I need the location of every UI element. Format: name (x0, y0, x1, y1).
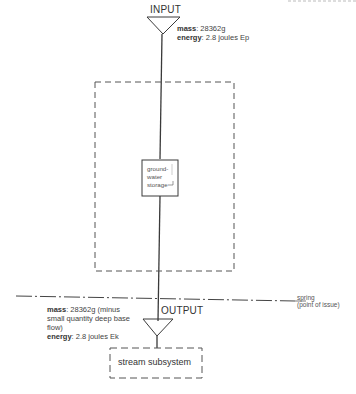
output-energy: energy: 2.8 joules Ek (47, 332, 119, 341)
spring-sublabel: (point of issue) (297, 301, 340, 309)
output-energy-label: energy (47, 332, 72, 341)
stream-subsystem-label: stream subsystem (118, 357, 191, 367)
output-mass-label: mass (47, 305, 66, 314)
spring-boundary-line (16, 296, 295, 301)
input-energy: energy: 2.8 joules Ep (177, 33, 249, 42)
output-title: OUTPUT (161, 305, 203, 316)
input-title: INPUT (150, 4, 181, 15)
storage-line-2: water (147, 173, 162, 181)
flow-line-lower (158, 196, 160, 321)
output-energy-value: : 2.8 joules Ek (72, 332, 119, 341)
storage-line-3: storage (147, 181, 168, 189)
flow-line-upper (160, 34, 162, 159)
output-mass-line-2: small quantity deep base (47, 314, 130, 323)
output-mass: mass: 28362g (minus (47, 305, 120, 314)
input-mass-value: : 28362g (196, 24, 225, 33)
output-mass-value: : 28362g (minus (66, 305, 120, 314)
input-energy-value: : 2.8 joules Ep (202, 33, 250, 42)
input-mass: mass: 28362g (177, 24, 225, 33)
output-triangle-icon (143, 319, 173, 336)
input-triangle-icon (147, 17, 180, 34)
input-mass-label: mass (177, 24, 196, 33)
storage-line-1: ground- (147, 165, 168, 173)
input-energy-label: energy (177, 33, 202, 42)
output-mass-line-3: flow) (47, 323, 63, 332)
